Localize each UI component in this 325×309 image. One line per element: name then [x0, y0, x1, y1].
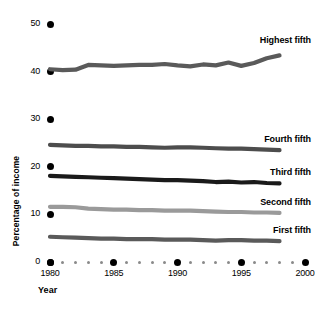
series-label-third-fifth: Third fifth [270, 167, 311, 177]
series-line [50, 237, 280, 241]
income-distribution-chart: Percentage of income Year 01020304050 19… [0, 0, 325, 309]
series-line [50, 55, 280, 70]
series-label-first-fifth: First fifth [273, 225, 311, 235]
series-label-fourth-fifth: Fourth fifth [264, 134, 311, 144]
series-line [50, 176, 280, 184]
plot-area [0, 0, 325, 309]
series-line [50, 145, 280, 150]
series-label-highest-fifth: Highest fifth [260, 35, 311, 45]
series-line [50, 207, 280, 213]
series-label-second-fifth: Second fifth [260, 197, 311, 207]
